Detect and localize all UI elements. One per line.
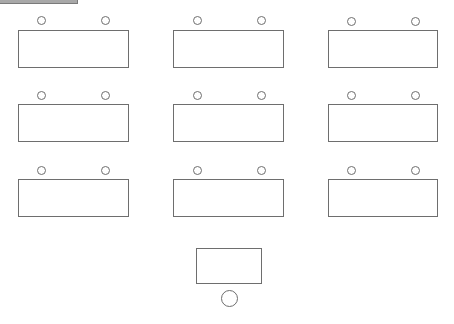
student-seat-r1-c2-1 bbox=[193, 16, 202, 25]
student-seat-r1-c3-2 bbox=[411, 17, 420, 26]
student-seat-r2-c3-2 bbox=[411, 91, 420, 100]
student-seat-r2-c1-1 bbox=[37, 91, 46, 100]
teacher-seat bbox=[221, 290, 238, 307]
student-desk-r3-c2 bbox=[173, 179, 284, 217]
student-seat-r1-c2-2 bbox=[257, 16, 266, 25]
student-desk-r2-c3 bbox=[328, 104, 438, 142]
student-desk-r2-c2 bbox=[173, 104, 284, 142]
student-seat-r1-c1-2 bbox=[101, 16, 110, 25]
student-desk-r3-c1 bbox=[18, 179, 129, 217]
teacher-desk bbox=[196, 248, 262, 284]
top-toolbar-strip bbox=[0, 0, 78, 4]
student-seat-r1-c3-1 bbox=[347, 17, 356, 26]
student-desk-r1-c2 bbox=[173, 30, 284, 68]
student-desk-r3-c3 bbox=[328, 179, 438, 217]
student-seat-r2-c2-2 bbox=[257, 91, 266, 100]
student-seat-r1-c1-1 bbox=[37, 16, 46, 25]
student-seat-r3-c1-2 bbox=[101, 166, 110, 175]
student-desk-r1-c3 bbox=[328, 30, 438, 68]
student-desk-r2-c1 bbox=[18, 104, 129, 142]
student-desk-r1-c1 bbox=[18, 30, 129, 68]
student-seat-r3-c3-2 bbox=[411, 166, 420, 175]
student-seat-r3-c3-1 bbox=[347, 166, 356, 175]
student-seat-r3-c2-2 bbox=[257, 166, 266, 175]
student-seat-r3-c2-1 bbox=[193, 166, 202, 175]
student-seat-r3-c1-1 bbox=[37, 166, 46, 175]
student-seat-r2-c2-1 bbox=[193, 91, 202, 100]
student-seat-r2-c1-2 bbox=[101, 91, 110, 100]
student-seat-r2-c3-1 bbox=[347, 91, 356, 100]
